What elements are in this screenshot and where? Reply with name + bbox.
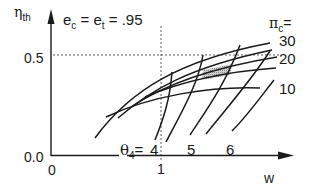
y-tick-0-5: 0.5	[24, 51, 43, 65]
theta-subscript: 4	[129, 150, 135, 161]
theta4-6-label: 6	[226, 143, 234, 157]
pi-c-30-label: 30	[279, 34, 296, 48]
y-axis-label: ηth	[14, 5, 31, 21]
pi-symbol: π	[269, 15, 278, 31]
y-tick-0-0: 0.0	[24, 150, 43, 164]
pi-c-10-label: 10	[279, 82, 296, 96]
curve-pi-c-10	[106, 88, 260, 117]
theta-eq: =	[135, 141, 144, 158]
curve-theta4-5	[190, 45, 240, 135]
efficiency-annotation: ec = et = .95	[63, 13, 143, 29]
pi-eq: =	[283, 15, 291, 31]
x-tick-1: 1	[157, 162, 165, 176]
eta-subscript: th	[22, 12, 30, 23]
pi-c-label: πc=	[269, 16, 291, 32]
curve-theta4-5b	[206, 51, 270, 134]
x-axis-label: w	[264, 171, 274, 185]
y-axis-arrow-icon	[48, 9, 55, 24]
annot-mid: = e	[76, 11, 101, 28]
theta4-4-label: 4	[150, 143, 158, 157]
efficiency-diagram	[0, 0, 313, 188]
theta4-curves	[155, 45, 274, 142]
theta-symbol: θ	[120, 141, 129, 159]
annot-ec-sub: c	[71, 20, 76, 31]
x-axis-arrow-icon	[278, 152, 294, 160]
theta4-label: θ4=	[120, 143, 143, 159]
annot-et-sub: t	[102, 20, 105, 31]
annot-val: = .95	[105, 11, 143, 28]
pi-c-curves	[95, 43, 277, 138]
x-tick-0: 0	[48, 163, 56, 177]
theta4-5-label: 5	[187, 143, 195, 157]
pi-c-20-label: 20	[279, 52, 296, 66]
